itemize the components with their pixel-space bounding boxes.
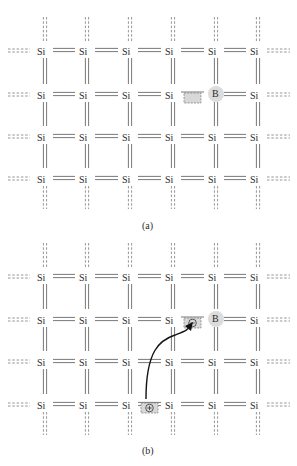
covalent-bond bbox=[224, 176, 246, 179]
svg-text:Si: Si bbox=[250, 132, 259, 143]
svg-text:Si: Si bbox=[122, 90, 131, 101]
svg-text:Si: Si bbox=[208, 132, 217, 143]
dangling-bond-right bbox=[267, 360, 290, 363]
dangling-bond-right bbox=[267, 275, 290, 278]
silicon-atom: Si bbox=[79, 46, 88, 57]
dangling-bond-bottom bbox=[85, 186, 88, 209]
silicon-atom: Si bbox=[250, 132, 259, 143]
dangling-bond-left bbox=[8, 49, 30, 52]
covalent-bond bbox=[171, 58, 174, 84]
silicon-atom: Si bbox=[250, 174, 259, 185]
silicon-atom: Si bbox=[250, 315, 259, 326]
svg-text:Si: Si bbox=[122, 132, 131, 143]
silicon-atom: Si bbox=[250, 400, 259, 411]
svg-text:Si: Si bbox=[208, 46, 217, 57]
svg-text:Si: Si bbox=[37, 132, 46, 143]
silicon-atom: Si bbox=[165, 315, 174, 326]
dangling-bond-bottom bbox=[128, 186, 131, 209]
silicon-atom: Si bbox=[165, 357, 174, 368]
dangling-bond-top bbox=[256, 243, 259, 267]
dangling-bond-right bbox=[267, 318, 290, 321]
dangling-bond-left bbox=[8, 177, 30, 180]
silicon-atom: Si bbox=[122, 357, 131, 368]
svg-text:Si: Si bbox=[165, 46, 174, 57]
silicon-atom: Si bbox=[250, 90, 259, 101]
dangling-bond-top bbox=[43, 243, 46, 267]
svg-text:Si: Si bbox=[165, 272, 174, 283]
svg-text:Si: Si bbox=[37, 400, 46, 411]
dangling-bond-top bbox=[128, 243, 131, 267]
svg-text:Si: Si bbox=[165, 315, 174, 326]
silicon-atom: Si bbox=[37, 46, 46, 57]
svg-text:Si: Si bbox=[79, 90, 88, 101]
covalent-bond bbox=[128, 144, 131, 168]
covalent-bond bbox=[95, 48, 118, 51]
covalent-bond bbox=[224, 402, 246, 405]
covalent-bond bbox=[85, 327, 88, 351]
covalent-bond bbox=[43, 102, 46, 126]
svg-text:Si: Si bbox=[165, 174, 174, 185]
dangling-bond-right bbox=[267, 49, 290, 52]
silicon-atom: Si bbox=[208, 174, 217, 185]
svg-text:Si: Si bbox=[250, 315, 259, 326]
silicon-atom: Si bbox=[208, 46, 217, 57]
covalent-bond bbox=[224, 359, 246, 362]
svg-text:Si: Si bbox=[79, 357, 88, 368]
silicon-atom: Si bbox=[37, 357, 46, 368]
covalent-bond bbox=[214, 102, 217, 126]
dangling-bond-top bbox=[85, 17, 88, 41]
covalent-bond bbox=[43, 327, 46, 351]
covalent-bond bbox=[171, 327, 174, 351]
covalent-bond bbox=[256, 284, 259, 309]
svg-text:Si: Si bbox=[250, 357, 259, 368]
covalent-bond bbox=[171, 144, 174, 168]
covalent-bond bbox=[128, 102, 131, 126]
silicon-atom: Si bbox=[165, 272, 174, 283]
silicon-atom: Si bbox=[250, 357, 259, 368]
covalent-bond bbox=[138, 48, 161, 51]
svg-text:Si: Si bbox=[79, 132, 88, 143]
svg-text:Si: Si bbox=[250, 46, 259, 57]
dangling-bond-left bbox=[8, 318, 30, 321]
covalent-bond bbox=[53, 92, 75, 95]
silicon-atom: Si bbox=[37, 174, 46, 185]
svg-text:Si: Si bbox=[79, 46, 88, 57]
dangling-bond-bottom bbox=[43, 412, 46, 435]
covalent-bond bbox=[95, 134, 118, 137]
boron-atom: B bbox=[208, 311, 224, 327]
covalent-bond bbox=[224, 92, 246, 95]
covalent-bond bbox=[95, 176, 118, 179]
svg-text:Si: Si bbox=[250, 174, 259, 185]
svg-text:Si: Si bbox=[122, 357, 131, 368]
silicon-atom: Si bbox=[79, 400, 88, 411]
svg-text:Si: Si bbox=[122, 315, 131, 326]
svg-text:Si: Si bbox=[208, 272, 217, 283]
dangling-bond-top bbox=[171, 243, 174, 267]
dangling-bond-right bbox=[267, 177, 290, 180]
covalent-bond bbox=[128, 327, 131, 351]
dangling-bond-left bbox=[8, 135, 30, 138]
covalent-bond bbox=[171, 369, 174, 394]
silicon-atom: Si bbox=[122, 315, 131, 326]
covalent-bond bbox=[95, 274, 118, 277]
svg-text:Si: Si bbox=[250, 272, 259, 283]
covalent-bond bbox=[85, 58, 88, 84]
svg-text:Si: Si bbox=[165, 357, 174, 368]
covalent-bond bbox=[85, 144, 88, 168]
covalent-bond bbox=[53, 274, 75, 277]
svg-text:Si: Si bbox=[165, 400, 174, 411]
lattice-panel-a: SiSiSiSiSiSiSiSiSiSiBSiSiSiSiSiSiSiSiSiS… bbox=[8, 17, 290, 209]
dangling-bond-bottom bbox=[256, 186, 259, 209]
covalent-bond bbox=[128, 369, 131, 394]
dangling-bond-bottom bbox=[128, 412, 131, 435]
svg-text:Si: Si bbox=[122, 400, 131, 411]
covalent-bond bbox=[85, 369, 88, 394]
svg-text:Si: Si bbox=[122, 46, 131, 57]
covalent-bond bbox=[53, 359, 75, 362]
covalent-bond bbox=[171, 284, 174, 309]
covalent-bond bbox=[128, 58, 131, 84]
covalent-bond bbox=[256, 102, 259, 126]
covalent-bond bbox=[181, 359, 204, 362]
covalent-bond bbox=[43, 144, 46, 168]
svg-text:Si: Si bbox=[37, 272, 46, 283]
